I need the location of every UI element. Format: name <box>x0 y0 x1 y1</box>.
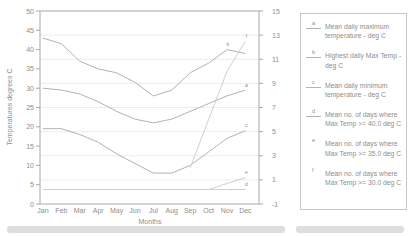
legend-marker-letter: e <box>312 137 315 143</box>
x-tick-label: Jan <box>37 207 48 214</box>
point-label-a: a <box>245 82 248 88</box>
y-left-tick-label: 40 <box>26 46 34 53</box>
point-label-b: b <box>227 41 230 47</box>
legend-label: Highest daily Max Temp - deg C <box>325 51 402 69</box>
point-label-d: d <box>245 181 248 187</box>
bottom-scrollbar-right <box>296 226 404 233</box>
x-tick-label: Nov <box>221 207 234 214</box>
point-label-f: f <box>246 33 248 39</box>
y-left-tick-label: 15 <box>26 143 34 150</box>
x-tick-label: Mar <box>74 207 87 214</box>
y-left-tick-label: 35 <box>26 65 34 72</box>
legend-marker-c-icon: c <box>305 81 322 91</box>
x-tick-label: Feb <box>55 207 67 214</box>
y-right-tick-label: 7 <box>272 104 276 111</box>
y-left-tick-label: 5 <box>30 181 34 188</box>
series-f-line <box>190 41 245 168</box>
series-c-line <box>43 129 245 173</box>
y-left-tick-label: 25 <box>26 104 34 111</box>
y-right-tick-label: 5 <box>272 128 276 135</box>
y-axis-title: Temperatures degrees C <box>6 68 13 145</box>
x-axis-title: Months <box>40 218 260 225</box>
y-right-tick-label: 11 <box>272 56 279 63</box>
y-right-tick-label: 3 <box>272 152 276 159</box>
series-e-line <box>209 178 246 190</box>
legend-marker-e-icon: e <box>305 139 322 149</box>
y-left-tick-label: 20 <box>26 123 34 130</box>
y-left-tick-label: 50 <box>26 8 34 15</box>
y-right-tick-label: 13 <box>272 32 280 39</box>
legend-marker-letter: a <box>312 20 315 26</box>
legend-item-f: f Mean no. of days where Max Temp >= 30.… <box>305 169 402 187</box>
bottom-scrollbar-left <box>7 226 285 233</box>
legend-label: Mean no. of days where Max Temp >= 35.0 … <box>325 139 402 157</box>
y-right-tick-label: 9 <box>272 80 276 87</box>
x-tick-label: Oct <box>203 207 214 214</box>
legend-marker-a-icon: a <box>305 22 322 32</box>
legend-label: Mean no. of days where Max Temp >= 40.0 … <box>325 110 402 128</box>
y-left-tick-label: 10 <box>26 162 34 169</box>
y-right-tick-label: -1 <box>272 201 278 208</box>
y-left-tick-label: 45 <box>26 27 34 34</box>
legend-marker-letter: b <box>312 49 315 55</box>
legend-marker-letter: f <box>312 167 314 173</box>
legend-item-d: d Mean no. of days where Max Temp >= 40.… <box>305 110 402 128</box>
y-left-tick-label: 30 <box>26 85 34 92</box>
y-right-tick-label: 1 <box>272 176 276 183</box>
legend-marker-d-icon: d <box>305 110 322 120</box>
climate-chart-figure: 05101520253035404550-113579111315JanFebM… <box>0 0 411 236</box>
x-tick-label: Aug <box>166 207 179 215</box>
legend-item-b: b Highest daily Max Temp - deg C <box>305 51 402 69</box>
legend-marker-b-icon: b <box>305 51 322 61</box>
legend-label: Mean daily minimum temperature - deg C <box>325 81 402 99</box>
x-tick-label: Apr <box>93 207 105 215</box>
legend-label: Mean no. of days where Max Temp >= 30.0 … <box>325 169 402 187</box>
legend-item-e: e Mean no. of days where Max Temp >= 35.… <box>305 139 402 157</box>
legend-item-a: a Mean daily maximum temperature - deg C <box>305 22 402 40</box>
y-left-tick-label: 0 <box>30 201 34 208</box>
x-tick-label: Jun <box>129 207 140 214</box>
legend-label: Mean daily maximum temperature - deg C <box>325 22 402 40</box>
x-tick-label: May <box>110 207 124 215</box>
legend-box: a Mean daily maximum temperature - deg C… <box>300 13 407 210</box>
legend-marker-letter: d <box>312 108 315 114</box>
series-a-line <box>43 88 245 123</box>
x-tick-label: Dec <box>239 207 252 214</box>
point-label-e: e <box>245 169 248 175</box>
point-label-c: c <box>245 122 248 128</box>
legend-marker-f-icon: f <box>305 169 322 179</box>
series-b-line <box>43 38 245 96</box>
x-tick-label: Sep <box>184 207 197 215</box>
y-right-tick-label: 15 <box>272 8 280 15</box>
legend-marker-letter: c <box>312 79 315 85</box>
legend-item-c: c Mean daily minimum temperature - deg C <box>305 81 402 99</box>
x-tick-label: Jul <box>149 207 158 214</box>
